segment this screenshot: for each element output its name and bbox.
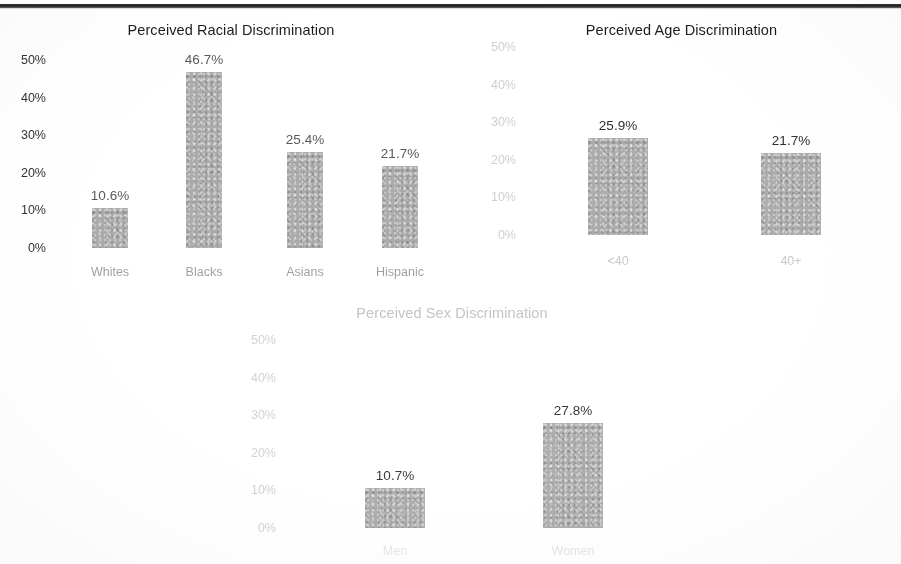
bar <box>365 488 425 528</box>
plot-area: 50%40%30%20%10%0%10.6%Whites46.7%Blacks2… <box>0 22 462 280</box>
bar <box>92 208 128 248</box>
x-axis-category-label: Hispanic <box>376 266 424 279</box>
y-axis-tick-label: 0% <box>232 522 282 535</box>
x-axis-category-label: <40 <box>607 255 628 268</box>
chart-perceived-sex-discrimination: Perceived Sex Discrimination 50%40%30%20… <box>232 305 672 564</box>
y-axis-tick-label: 50% <box>232 334 282 347</box>
y-axis-tick-label: 20% <box>232 447 282 460</box>
y-axis-tick-label: 10% <box>232 484 282 497</box>
y-axis-tick-label: 10% <box>462 191 522 204</box>
chart-perceived-racial-discrimination: Perceived Racial Discrimination 50%40%30… <box>0 22 462 280</box>
bar <box>287 152 323 248</box>
bar <box>186 72 222 248</box>
x-axis-category-label: Men <box>383 545 407 558</box>
y-axis-tick-label: 40% <box>0 91 52 104</box>
bar-value-label: 21.7% <box>381 147 419 161</box>
bar-value-label: 25.4% <box>286 133 324 147</box>
bar-value-label: 25.9% <box>599 119 637 133</box>
y-axis-tick-label: 30% <box>232 409 282 422</box>
y-axis-tick-label: 20% <box>462 154 522 167</box>
y-axis-tick-label: 30% <box>0 129 52 142</box>
bar <box>382 166 418 248</box>
x-axis-category-label: Women <box>552 545 595 558</box>
y-axis-tick-label: 10% <box>0 204 52 217</box>
x-axis-category-label: Blacks <box>186 266 223 279</box>
y-axis-tick-label: 40% <box>462 78 522 91</box>
y-axis-tick-label: 0% <box>462 229 522 242</box>
x-axis-category-label: Asians <box>286 266 324 279</box>
y-axis-tick-label: 0% <box>0 242 52 255</box>
x-axis-category-label: Whites <box>91 266 129 279</box>
chart-perceived-age-discrimination: Perceived Age Discrimination 50%40%30%20… <box>462 22 901 280</box>
bar-value-label: 21.7% <box>772 134 810 148</box>
y-axis-tick-label: 20% <box>0 167 52 180</box>
bar-value-label: 10.6% <box>91 189 129 203</box>
page-top-rule <box>0 4 901 8</box>
bar-value-label: 27.8% <box>554 404 592 418</box>
figure-page: Perceived Racial Discrimination 50%40%30… <box>0 0 901 564</box>
bar <box>543 423 603 528</box>
y-axis-tick-label: 40% <box>232 371 282 384</box>
y-axis-tick-label: 50% <box>0 54 52 67</box>
y-axis-tick-label: 30% <box>462 116 522 129</box>
bar <box>588 138 648 235</box>
x-axis-category-label: 40+ <box>780 255 801 268</box>
bar-value-label: 46.7% <box>185 53 223 67</box>
plot-area: 50%40%30%20%10%0%10.7%Men27.8%Women <box>232 305 672 564</box>
plot-area: 50%40%30%20%10%0%25.9%<4021.7%40+ <box>462 22 901 280</box>
y-axis-tick-label: 50% <box>462 41 522 54</box>
bar <box>761 153 821 235</box>
bar-value-label: 10.7% <box>376 469 414 483</box>
